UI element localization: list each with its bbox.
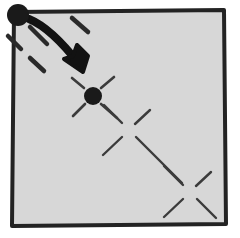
- diagram-scene: [0, 0, 240, 238]
- origin-dot: [7, 4, 29, 26]
- target-dot: [84, 87, 102, 105]
- figure-canvas: [0, 0, 240, 238]
